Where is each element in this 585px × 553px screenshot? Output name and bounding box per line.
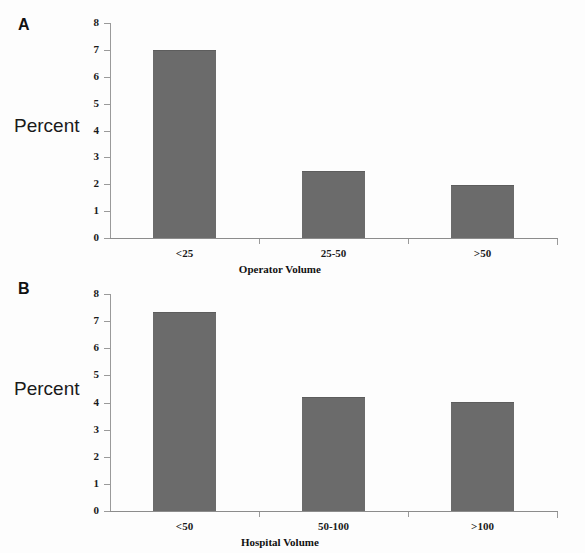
y-tick-label: 0 xyxy=(94,504,100,516)
bar xyxy=(302,397,365,511)
x-category-label: 50-100 xyxy=(318,520,349,532)
x-category-label: 25-50 xyxy=(321,247,347,259)
x-category-label: >50 xyxy=(474,247,491,259)
x-category-label: >100 xyxy=(471,520,494,532)
y-tick-label: 0 xyxy=(94,231,100,243)
bar xyxy=(302,171,365,238)
y-tick-mark: 0 xyxy=(104,511,110,512)
y-tick-mark: 7 xyxy=(104,50,110,51)
x-tick-mark xyxy=(408,239,409,244)
y-tick-label: 6 xyxy=(94,341,100,353)
bar xyxy=(153,50,216,238)
y-tick-mark: 1 xyxy=(104,211,110,212)
y-tick-mark: 7 xyxy=(104,321,110,322)
y-tick-mark: 0 xyxy=(104,238,110,239)
x-tick-mark xyxy=(408,512,409,517)
panel-b-x-axis-title: Hospital Volume xyxy=(241,536,319,548)
y-tick-label: 3 xyxy=(94,423,100,435)
y-tick-label: 1 xyxy=(94,477,100,489)
y-tick-label: 8 xyxy=(94,287,100,299)
y-tick-label: 2 xyxy=(94,450,100,462)
panel-b-plot-area: 012345678 <5050-100>100 Hospital Volume xyxy=(110,294,557,512)
y-tick-mark: 6 xyxy=(104,77,110,78)
panel-a-plot-area: 012345678 <2525-50>50 Operator Volume xyxy=(110,23,557,239)
y-tick-mark: 6 xyxy=(104,348,110,349)
y-tick-label: 7 xyxy=(94,43,100,55)
y-tick-label: 2 xyxy=(94,177,100,189)
y-tick-mark: 3 xyxy=(104,157,110,158)
panel-a-y-axis-title: Percent xyxy=(14,115,79,137)
x-tick-mark xyxy=(557,239,558,245)
y-tick-mark: 4 xyxy=(104,131,110,132)
y-tick-mark: 2 xyxy=(104,457,110,458)
x-tick-mark xyxy=(259,239,260,244)
panel-a-y-axis-line xyxy=(110,23,111,239)
bar xyxy=(451,402,514,512)
y-tick-label: 7 xyxy=(94,314,100,326)
y-tick-mark: 8 xyxy=(104,23,110,24)
y-tick-mark: 3 xyxy=(104,430,110,431)
x-category-label: <25 xyxy=(176,247,193,259)
panel-a-x-axis-line xyxy=(110,238,558,239)
bar xyxy=(153,312,216,511)
panel-b-letter: B xyxy=(18,280,30,298)
panel-b: B Percent 012345678 <5050-100>100 Hospit… xyxy=(0,268,585,553)
y-tick-label: 6 xyxy=(94,70,100,82)
y-tick-label: 3 xyxy=(94,150,100,162)
panel-b-y-axis-title: Percent xyxy=(14,378,79,400)
y-tick-label: 4 xyxy=(94,396,100,408)
x-category-label: <50 xyxy=(176,520,193,532)
panel-b-y-axis-line xyxy=(110,294,111,512)
y-tick-label: 5 xyxy=(94,97,100,109)
panel-a-letter: A xyxy=(18,16,30,34)
panel-a: A Percent 012345678 <2525-50>50 Operator… xyxy=(0,0,585,276)
x-tick-mark xyxy=(259,512,260,517)
y-tick-mark: 2 xyxy=(104,184,110,185)
y-tick-label: 8 xyxy=(94,16,100,28)
y-tick-label: 1 xyxy=(94,204,100,216)
figure-container: A Percent 012345678 <2525-50>50 Operator… xyxy=(0,0,585,553)
x-tick-mark xyxy=(557,512,558,518)
y-tick-mark: 4 xyxy=(104,403,110,404)
y-tick-mark: 5 xyxy=(104,104,110,105)
y-tick-mark: 5 xyxy=(104,375,110,376)
panel-b-x-axis-line xyxy=(110,511,558,512)
bar xyxy=(451,185,514,238)
y-tick-mark: 8 xyxy=(104,294,110,295)
y-tick-mark: 1 xyxy=(104,484,110,485)
y-tick-label: 5 xyxy=(94,368,100,380)
y-tick-label: 4 xyxy=(94,124,100,136)
